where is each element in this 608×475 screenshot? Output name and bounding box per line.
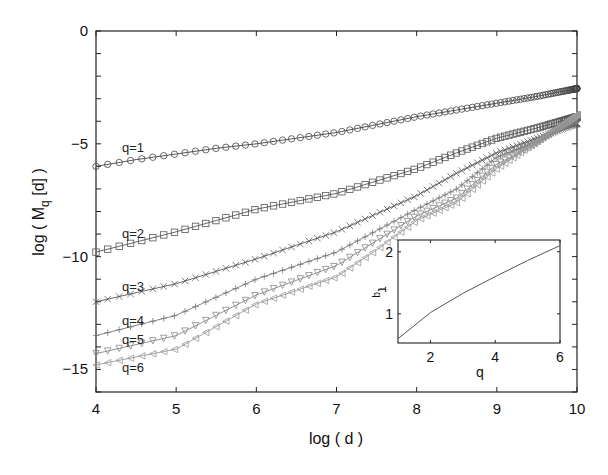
x-axis-label: log ( d ) [309,430,363,447]
y-tick-label: −5 [71,135,88,152]
x-tick-label: 6 [252,400,260,417]
series-label: q=2 [122,226,144,241]
inset-plot-tau-q: 24612 [385,240,564,365]
y-tick-label: 0 [80,22,88,39]
inset-x-axis-label: q [476,364,484,380]
inset-x-tick-label: 4 [491,349,499,365]
series-label: q=5 [122,332,144,347]
x-tick-label: 10 [569,400,586,417]
inset-y-tick-label: 1 [385,306,393,322]
inset-frame [398,240,560,343]
series-label: q=4 [122,313,144,328]
x-tick-label: 5 [172,400,180,417]
series-label: q=3 [122,279,144,294]
y-tick-label: −10 [63,248,88,265]
x-tick-label: 7 [332,400,340,417]
series-label: q=1 [122,140,144,155]
y-tick-label: −15 [63,360,88,377]
x-tick-label: 8 [412,400,420,417]
x-tick-label: 4 [92,400,100,417]
x-tick-label: 9 [493,400,501,417]
multifractal-moments-chart: 456789100−5−10−15q=1q=2q=3q=4q=5q=6 2461… [0,0,608,475]
inset-x-tick-label: 6 [556,349,564,365]
inset-x-tick-label: 2 [427,349,435,365]
inset-y-axis-label: τq [372,286,391,297]
inset-y-tick-label: 2 [385,244,393,260]
y-axis-label: log ( Mq [d] ) [30,168,52,256]
main-plot-area: 456789100−5−10−15q=1q=2q=3q=4q=5q=6 [63,22,586,417]
series-label: q=6 [122,360,144,375]
